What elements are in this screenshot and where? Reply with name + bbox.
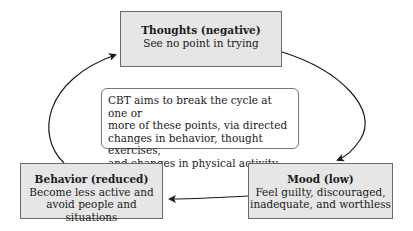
mood-title: Mood (low): [249, 173, 392, 186]
mood-box: Mood (low) Feel guilty, discouraged, ina…: [248, 163, 393, 219]
thoughts-title: Thoughts (negative): [121, 24, 281, 37]
mood-description-line: inadequate, and worthless: [249, 198, 392, 211]
note-line: more of these points, via directed: [108, 119, 292, 132]
note-line: CBT aims to break the cycle at one or: [108, 94, 292, 119]
mood-description-line: Feel guilty, discouraged,: [249, 186, 392, 199]
thoughts-description: See no point in trying: [121, 37, 281, 50]
note-line: changes in behavior, thought exercises,: [108, 132, 292, 157]
cbt-note-box: CBT aims to break the cycle at one or mo…: [101, 88, 299, 149]
behavior-box: Behavior (reduced) Become less active an…: [20, 163, 163, 219]
arrow-mood-to-behavior: [170, 196, 248, 199]
behavior-title: Behavior (reduced): [21, 173, 162, 186]
thoughts-box: Thoughts (negative) See no point in tryi…: [120, 11, 282, 67]
behavior-description-line: avoid people and situations: [21, 198, 162, 223]
behavior-description-line: Become less active and: [21, 186, 162, 199]
